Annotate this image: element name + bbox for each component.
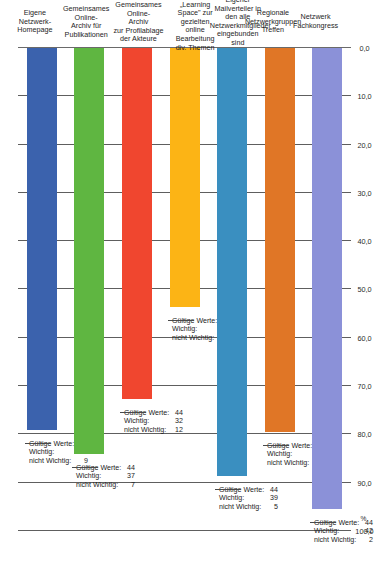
annotation-value: 42: [360, 528, 373, 536]
category-label: Gemeinsames Online- Archiv für Publikati…: [59, 5, 115, 39]
annotation-key: nicht Wichtig:: [76, 481, 121, 489]
annotation-key: nicht Wichtig:: [124, 426, 169, 434]
bar: [74, 48, 104, 454]
annotation-key: nicht Wichtig:: [314, 536, 359, 544]
axis-tick-label: 80,0: [351, 430, 378, 439]
category-label: Eigene Netzwerk- Homepage: [7, 9, 63, 35]
axis-tick-label: 70,0: [351, 382, 378, 391]
annotation-key: Gültige Werte:: [314, 519, 359, 527]
axis-tick-label: 0,0: [351, 44, 378, 53]
annotation-value: 44: [360, 519, 373, 527]
bar-annotation: Gültige Werte:Wichtig:nicht Wichtig:4122…: [172, 317, 217, 342]
annotation-value: 32: [170, 418, 183, 426]
bar: [122, 48, 152, 399]
axis-tick-label: 10,0: [351, 92, 378, 101]
annotation-key: Gültige Werte:: [219, 486, 264, 494]
annotation-value: 7: [122, 481, 135, 489]
annotation-key: Wichtig:: [76, 473, 121, 481]
bar: [312, 48, 342, 509]
gridline: [18, 482, 351, 483]
annotation-value: 39: [265, 494, 278, 502]
annotation-key: Wichtig:: [124, 418, 169, 426]
bar: [217, 48, 247, 476]
bar: [27, 48, 57, 430]
axis-tick-label: 40,0: [351, 237, 378, 246]
axis-tick-label: 50,0: [351, 285, 378, 294]
axis-tick-label: 60,0: [351, 333, 378, 342]
axis-tick-label: 90,0: [351, 478, 378, 487]
annotation-key: Gültige Werte:: [76, 464, 121, 472]
annotation-value: 44: [170, 409, 183, 417]
annotation-value: 12: [170, 426, 183, 434]
annotation-key: nicht Wichtig:: [219, 503, 264, 511]
bar: [170, 48, 200, 307]
annotation-value: 44: [265, 486, 278, 494]
axis-tick-label: 30,0: [351, 188, 378, 197]
annotation-key: nicht Wichtig:: [267, 459, 312, 467]
category-label: Gemeinsames Online- Archiv zur Profilabl…: [110, 1, 166, 44]
annotation-value: 37: [122, 473, 135, 481]
annotation-leader-line: [215, 489, 241, 490]
gridline: [18, 433, 351, 434]
annotation-key: nicht Wichtig:: [29, 457, 74, 465]
annotation-key: Gültige Werte:: [267, 442, 312, 450]
annotation-key: Gültige Werte:: [29, 440, 74, 448]
bar: [265, 48, 295, 432]
annotation-value: 44: [122, 464, 135, 472]
annotation-key: Wichtig:: [219, 494, 264, 502]
annotation-leader-line: [25, 443, 51, 444]
annotation-value: 2: [360, 536, 373, 544]
category-label: Netzwerk Fachkongress: [288, 13, 344, 30]
annotation-key: Gültige Werte:: [124, 409, 169, 417]
bar-annotation: Gültige Werte:Wichtig:nicht Wichtig:4442…: [314, 519, 359, 544]
annotation-key: Wichtig:: [267, 450, 312, 458]
annotation-leader-line: [263, 445, 289, 446]
annotation-key: nicht Wichtig:: [172, 334, 217, 342]
gridline: [18, 385, 351, 386]
gridline: [18, 530, 351, 531]
annotation-key: Wichtig:: [29, 448, 74, 456]
annotation-key: Wichtig:: [314, 528, 359, 536]
annotation-value: 5: [265, 503, 278, 511]
axis-tick-label: 20,0: [351, 140, 378, 149]
